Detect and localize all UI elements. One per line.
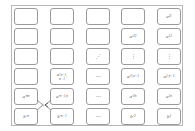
subscript: 1	[169, 115, 171, 119]
cell-r1c4: a12	[157, 28, 181, 45]
cell-r0c3	[121, 8, 145, 25]
cell-r3c3: a′2,n−1	[121, 68, 145, 85]
cell-r5c3: b′2	[121, 108, 145, 125]
cell-r5c1: b′n−1	[50, 108, 74, 125]
subscript: n−1,n	[60, 95, 69, 99]
cell-r0c2	[86, 8, 110, 25]
cell-r4c0: a′nn	[14, 88, 38, 105]
cell-r4c3: a′2n	[121, 88, 145, 105]
cell-r3c0	[14, 68, 38, 85]
cell-r2c0	[14, 48, 38, 65]
subscript: 1,n−1	[166, 75, 175, 79]
cell-r3c1: a′n−1, n−1	[50, 68, 74, 85]
subscript-line2: n−1	[59, 78, 65, 82]
cell-r4c2: ⋯	[86, 88, 110, 105]
cell-r1c3: a′22	[121, 28, 145, 45]
subscript: 1n	[169, 95, 173, 99]
cell-r0c4: a11	[157, 8, 181, 25]
cell-r1c1	[50, 28, 74, 45]
subscript: n	[27, 115, 29, 119]
cell-r1c0	[14, 28, 38, 45]
vertical-dots-icon: ⋮	[167, 54, 172, 59]
cell-r3c2: ⋯	[86, 68, 110, 85]
swap-arrow-icon	[36, 99, 52, 111]
cell-r5c2: ⋯	[86, 108, 110, 125]
subscript: 22	[133, 35, 137, 39]
cell-r0c1	[50, 8, 74, 25]
cell-r4c4: a1n	[157, 88, 181, 105]
cell-r0c0	[14, 8, 38, 25]
cell-r3c4: a1,n−1	[157, 68, 181, 85]
subscript: 2n	[133, 95, 137, 99]
diagonal-dots-icon: ⋰	[96, 54, 101, 59]
horizontal-dots-icon: ⋯	[96, 74, 101, 79]
horizontal-dots-icon: ⋯	[96, 114, 101, 119]
cell-r4c1: a′n−1,n	[50, 88, 74, 105]
subscript: nn	[26, 95, 30, 99]
subscript: 12	[169, 35, 173, 39]
cell-r2c3: ⋮	[121, 48, 145, 65]
subscript: n−1	[61, 115, 67, 119]
horizontal-dots-icon: ⋯	[96, 94, 101, 99]
cell-r5c4: b1	[157, 108, 181, 125]
subscript: 11	[169, 15, 172, 19]
cell-r2c4: ⋮	[157, 48, 181, 65]
vertical-dots-icon: ⋮	[131, 54, 136, 59]
cell-r1c2	[86, 28, 110, 45]
subscript: 2	[134, 115, 136, 119]
cell-r2c1	[50, 48, 74, 65]
cell-r2c2: ⋰	[86, 48, 110, 65]
cell-r5c0: b′n	[14, 108, 38, 125]
subscript: 2,n−1	[131, 75, 140, 79]
